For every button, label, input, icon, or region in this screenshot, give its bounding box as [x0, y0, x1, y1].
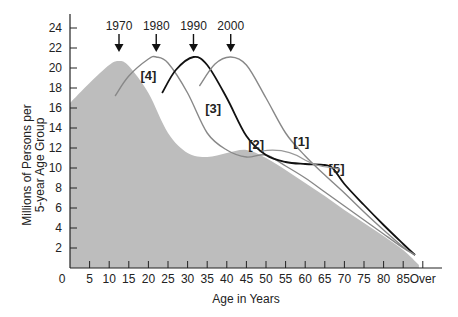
- area-1970: [70, 61, 419, 268]
- y-tick-label: 4: [55, 221, 62, 235]
- x-tick-label: 30: [181, 272, 195, 286]
- x-tick-label: 85: [397, 272, 411, 286]
- x-tick-label: 40: [220, 272, 234, 286]
- arrow-down-icon: [189, 44, 198, 52]
- x-tick-label: 10: [103, 272, 117, 286]
- x-tick-label: 35: [201, 272, 215, 286]
- x-tick-label: 20: [142, 272, 156, 286]
- year-marker-1970: 1970: [106, 19, 133, 52]
- year-marker-1990: 1990: [180, 19, 207, 52]
- year-label: 1990: [180, 19, 207, 33]
- x-tick-label: 15: [122, 272, 136, 286]
- x-tick-label: 65: [318, 272, 332, 286]
- y-tick-label: 6: [55, 201, 62, 215]
- x-tick-label: 45: [240, 272, 254, 286]
- y-tick-label: 10: [49, 161, 63, 175]
- arrow-down-icon: [226, 44, 235, 52]
- year-marker-1980: 1980: [143, 19, 170, 52]
- y-tick-label: 14: [49, 121, 63, 135]
- x-tick-label: 25: [161, 272, 175, 286]
- y-axis-title-line1: Millions of Persons per: [20, 104, 34, 225]
- year-label: 1980: [143, 19, 170, 33]
- x-tick-label: 75: [357, 272, 371, 286]
- arrow-down-icon: [115, 44, 124, 52]
- annotation-label: [2]: [248, 137, 264, 152]
- y-tick-label: 24: [49, 21, 63, 35]
- y-tick-label: 22: [49, 41, 63, 55]
- y-tick-label: 16: [49, 101, 63, 115]
- x-axis-title: Age in Years: [212, 292, 279, 306]
- y-tick-label: 2: [55, 241, 62, 255]
- x-tick-label: Over: [410, 272, 436, 286]
- x-tick-label: 5: [86, 272, 93, 286]
- x-tick-label: 80: [377, 272, 391, 286]
- x-tick-label: 60: [299, 272, 313, 286]
- year-label: 1970: [106, 19, 133, 33]
- y-axis-title: Millions of Persons per 5-year Age Group: [20, 104, 47, 225]
- population-age-chart: 510152025303540455055606570758085Over 24…: [0, 0, 458, 317]
- year-marker-2000: 2000: [217, 19, 244, 52]
- annotation-label: [3]: [205, 101, 221, 116]
- y-tick-label: 8: [55, 181, 62, 195]
- annotation-label: [1]: [293, 134, 309, 149]
- arrow-down-icon: [152, 44, 161, 52]
- year-markers: 1970198019902000: [106, 19, 245, 52]
- y-tick-label: 20: [49, 61, 63, 75]
- y-tick-label: 12: [49, 141, 63, 155]
- y-tick-label: 18: [49, 81, 63, 95]
- x-tick-label: 50: [259, 272, 273, 286]
- y-axis-title-line2: 5-year Age Group: [33, 117, 47, 212]
- origin-label: 0: [59, 272, 66, 286]
- area-1970: [70, 61, 419, 268]
- x-tick-label: 70: [338, 272, 352, 286]
- x-tick-label: 55: [279, 272, 293, 286]
- year-label: 2000: [217, 19, 244, 33]
- annotation-label: [4]: [140, 68, 156, 83]
